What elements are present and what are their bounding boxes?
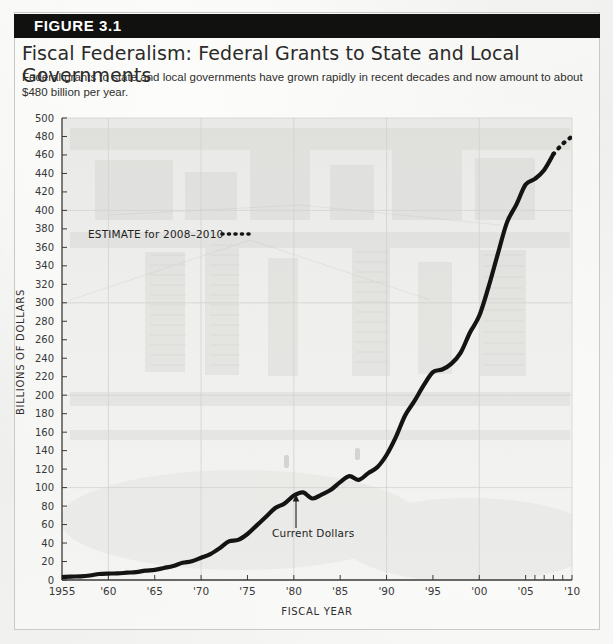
y-tick-label: 260: [35, 334, 54, 345]
y-tick-label: 340: [35, 260, 54, 271]
estimate-annotation-label: ESTIMATE for 2008–2010: [88, 228, 224, 240]
x-tick-label: '70: [193, 585, 209, 597]
x-tick-label: 1955: [49, 585, 76, 597]
y-tick-label: 440: [35, 168, 54, 179]
x-tick-label: '10: [564, 585, 580, 597]
x-axis-tick-labels: 1955'60'65'70'75'80'85'90'95'00'05'10: [49, 585, 580, 597]
x-tick-label: '85: [332, 585, 348, 597]
x-tick-label: '75: [239, 585, 255, 597]
y-tick-label: 0: [48, 575, 54, 586]
y-tick-label: 60: [41, 519, 54, 530]
y-tick-label: 160: [35, 427, 54, 438]
y-tick-label: 200: [35, 390, 54, 401]
y-tick-label: 420: [35, 186, 54, 197]
current-dollars-annotation-label: Current Dollars: [272, 527, 354, 539]
y-tick-label: 460: [35, 149, 54, 160]
y-tick-label: 400: [35, 205, 54, 216]
x-tick-label: '80: [286, 585, 302, 597]
y-tick-label: 180: [35, 408, 54, 419]
y-tick-label: 220: [35, 371, 54, 382]
y-tick-label: 40: [41, 538, 54, 549]
line-chart: 0204060801001201401601802002202402602803…: [0, 0, 613, 644]
y-tick-label: 20: [41, 556, 54, 567]
x-tick-label: '95: [425, 585, 441, 597]
y-tick-label: 500: [35, 113, 54, 124]
y-tick-label: 80: [41, 501, 54, 512]
y-tick-label: 100: [35, 482, 54, 493]
y-tick-label: 380: [35, 223, 54, 234]
x-tick-label: '60: [100, 585, 116, 597]
x-tick-label: '00: [471, 585, 487, 597]
x-tick-label: '05: [518, 585, 534, 597]
figure-root: FIGURE 3.1 Fiscal Federalism: Federal Gr…: [0, 0, 613, 644]
y-axis-tick-labels: 0204060801001201401601802002202402602803…: [35, 113, 54, 586]
y-axis-title: BILLIONS OF DOLLARS: [15, 289, 26, 415]
background-photo-watermark: [60, 118, 600, 582]
y-tick-label: 280: [35, 316, 54, 327]
chart-area: 0204060801001201401601802002202402602803…: [0, 0, 613, 644]
y-tick-label: 140: [35, 445, 54, 456]
y-tick-label: 320: [35, 279, 54, 290]
y-tick-label: 480: [35, 131, 54, 142]
y-tick-label: 240: [35, 353, 54, 364]
x-axis-title: FISCAL YEAR: [281, 606, 353, 617]
y-tick-label: 300: [35, 297, 54, 308]
x-tick-label: '90: [378, 585, 394, 597]
y-tick-label: 360: [35, 242, 54, 253]
y-tick-label: 120: [35, 464, 54, 475]
x-tick-label: '65: [147, 585, 163, 597]
